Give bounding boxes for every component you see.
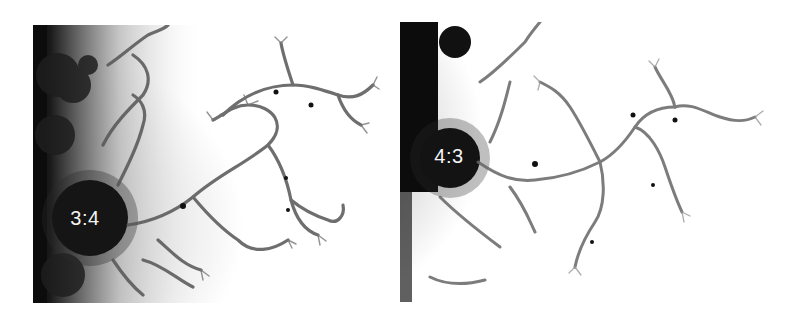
fractal-panel-right: 4:3 <box>400 22 789 302</box>
bulb-label-right: 4:3 <box>434 145 463 168</box>
bulb-label-left: 3:4 <box>70 207 99 230</box>
fractal-image-left <box>33 25 380 303</box>
fractal-panel-left: 3:4 <box>33 25 380 303</box>
